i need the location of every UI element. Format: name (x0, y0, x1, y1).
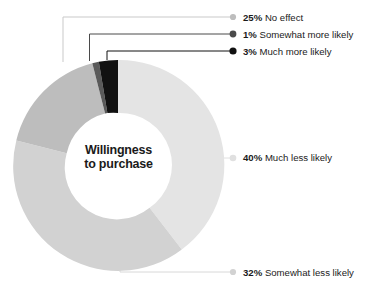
callout-desc-much-less-likely: Much less likely (265, 152, 332, 163)
center-label: Willingness to purchase (66, 143, 171, 171)
donut-chart: Willingness to purchase 25% No effect 1%… (0, 0, 378, 291)
callout-label-somewhat-more-likely[interactable]: 1% Somewhat more likely (243, 29, 353, 40)
leader-line-somewhat-more (90, 34, 233, 61)
callout-desc-somewhat-more-likely: Somewhat more likely (260, 29, 354, 40)
dot-somewhat-less (230, 269, 236, 275)
dot-much-less (230, 155, 237, 162)
callout-label-much-more-likely[interactable]: 3% Much more likely (243, 46, 332, 57)
callout-pct-much-less-likely: 40% (243, 152, 262, 163)
callout-label-much-less-likely[interactable]: 40% Much less likely (243, 152, 332, 163)
callout-pct-somewhat-less-likely: 32% (243, 267, 262, 278)
callout-pct-much-more-likely: 3% (243, 46, 257, 57)
center-label-line2: to purchase (84, 157, 153, 171)
dot-no-effect (230, 14, 236, 20)
center-label-line1: Willingness (85, 143, 152, 157)
leader-line-much-more (107, 51, 232, 60)
callout-pct-somewhat-more-likely: 1% (243, 29, 257, 40)
dot-somewhat-more (230, 31, 237, 38)
callout-pct-no-effect: 25% (243, 12, 262, 23)
donut-chart-svg (0, 0, 378, 291)
callout-dots (229, 14, 236, 275)
leader-line-no-effect (63, 17, 232, 62)
callout-desc-somewhat-less-likely: Somewhat less likely (265, 267, 354, 278)
slice-no-effect[interactable] (16, 63, 105, 153)
callout-desc-much-more-likely: Much more likely (260, 46, 332, 57)
callout-label-no-effect[interactable]: 25% No effect (243, 12, 303, 23)
dot-much-more (229, 47, 236, 54)
callout-label-somewhat-less-likely[interactable]: 32% Somewhat less likely (243, 267, 354, 278)
callout-desc-no-effect: No effect (265, 12, 303, 23)
